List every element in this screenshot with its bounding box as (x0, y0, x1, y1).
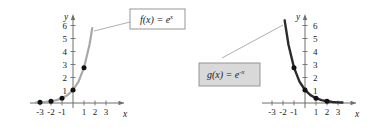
right-x-tick-label: -3 (268, 107, 276, 117)
left-y-tick-label: 1 (63, 86, 68, 96)
right-x-tick-label: 3 (336, 107, 341, 117)
left-y-tick-label: 2 (63, 73, 68, 83)
right-y-tick-label: 2 (313, 73, 318, 83)
data-point (49, 99, 54, 104)
left-x-tick-labels: -3 -2 -1 1 2 3 (36, 107, 109, 117)
right-x-axis-name: x (354, 109, 360, 119)
left-y-axis-name: y (63, 12, 69, 22)
right-x-tick-label: -1 (290, 107, 298, 117)
left-y-tick-label: 4 (63, 47, 68, 57)
right-y-tick-label: 6 (313, 21, 318, 31)
left-callout-box: f(x) = ex (130, 9, 185, 29)
exponential-functions-figure: -3 -2 -1 1 2 3 1 2 3 4 5 6 x y (0, 0, 372, 130)
left-y-axis (71, 14, 75, 108)
left-x-tick-label: -1 (58, 107, 66, 117)
left-callout-leader-line (94, 22, 130, 31)
right-callout-box: g(x) = e-x (199, 63, 260, 86)
data-point (325, 99, 330, 104)
data-point (303, 88, 308, 93)
left-x-tick-label: 3 (104, 107, 109, 117)
right-data-points (292, 65, 330, 104)
right-callout-args: (x) = (212, 69, 235, 81)
left-x-tick-label: -3 (36, 107, 44, 117)
left-y-tick-label: 3 (63, 60, 68, 70)
right-panel: -3 -2 -1 1 2 3 1 2 3 4 5 6 x y (199, 12, 360, 119)
right-y-tick-label: 3 (313, 60, 318, 70)
right-y-tick-label: 4 (313, 47, 318, 57)
left-y-tick-label: 5 (63, 34, 68, 44)
left-y-tick-label: 6 (63, 21, 68, 31)
right-y-axis-name: y (295, 12, 301, 22)
right-y-tick-label: 1 (313, 86, 318, 96)
data-point (60, 96, 65, 101)
right-y-axis (303, 14, 307, 108)
left-y-tick-labels: 1 2 3 4 5 6 (63, 21, 68, 96)
data-point (38, 100, 43, 105)
left-callout-args: (x) = (143, 14, 166, 26)
right-x-tick-label: 2 (325, 107, 330, 117)
right-x-tick-labels: -3 -2 -1 1 2 3 (268, 107, 341, 117)
right-y-tick-labels: 1 2 3 4 5 6 (313, 21, 318, 96)
left-x-tick-label: 1 (82, 107, 87, 117)
left-callout-exponent: x (169, 13, 173, 20)
figure-canvas: -3 -2 -1 1 2 3 1 2 3 4 5 6 x y (0, 0, 372, 130)
right-callout-leader-line (222, 25, 283, 58)
right-callout-exponent: -x (239, 68, 244, 75)
right-callout-label: g(x) = e-x (207, 68, 244, 81)
data-point (82, 65, 87, 70)
right-x-tick-label: -2 (279, 107, 287, 117)
data-point (292, 65, 297, 70)
right-x-tick-label: 1 (314, 107, 319, 117)
left-x-tick-label: -2 (47, 107, 55, 117)
data-point (314, 96, 319, 101)
left-panel: -3 -2 -1 1 2 3 1 2 3 4 5 6 x y (30, 9, 185, 119)
left-x-tick-label: 2 (93, 107, 98, 117)
left-callout-label: f(x) = ex (140, 13, 173, 26)
right-y-tick-label: 5 (313, 34, 318, 44)
left-x-axis-name: x (122, 109, 128, 119)
data-point (71, 88, 76, 93)
